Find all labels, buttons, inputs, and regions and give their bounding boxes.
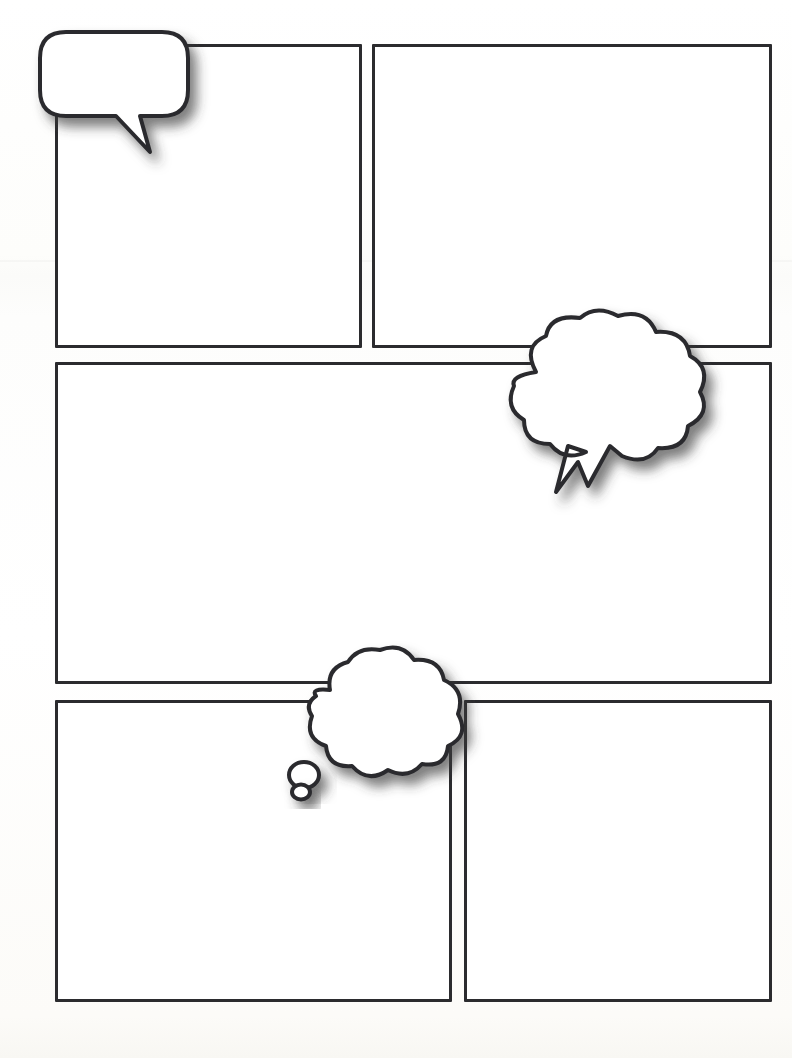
panel-5[interactable]	[464, 700, 772, 1002]
speech-bubble[interactable]	[38, 28, 210, 168]
comic-page	[0, 0, 792, 1058]
thought-bubble-dot-small	[292, 785, 310, 800]
thought-bubble[interactable]	[286, 644, 476, 809]
panel-2[interactable]	[372, 44, 772, 348]
shout-bubble[interactable]	[500, 306, 715, 501]
speech-bubble-outline	[40, 32, 188, 152]
thought-bubble-outline	[309, 648, 462, 777]
shout-bubble-outline	[511, 310, 705, 492]
